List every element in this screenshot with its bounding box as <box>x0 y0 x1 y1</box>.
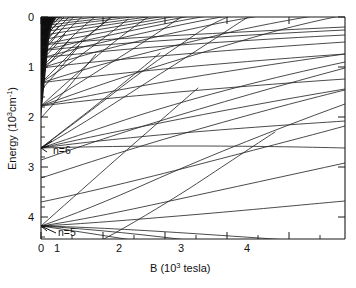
svg-text:B (103 tesla): B (103 tesla) <box>150 261 210 274</box>
x-tick-label: 1 <box>54 242 60 254</box>
x-axis-title: B (103 tesla) <box>150 261 210 274</box>
y-tick-labels: 0 1 2 3 4 <box>28 11 34 223</box>
y-tick-label: 2 <box>28 111 34 123</box>
energy-level-chart: 0 1 2 3 4 0 1 2 3 4 B (103 tesla) Energy… <box>0 0 356 288</box>
y-axis-title: Energy (103cm-1) <box>5 87 18 170</box>
annotation-n5: n=5 <box>41 226 76 238</box>
x-tick-labels: 0 1 2 3 4 <box>38 242 250 254</box>
x-tick-label: 4 <box>244 242 250 254</box>
chart-svg: 0 1 2 3 4 0 1 2 3 4 B (103 tesla) Energy… <box>0 0 356 288</box>
y-axis-title-unit: cm <box>6 97 18 112</box>
x-tick-label: 2 <box>116 242 122 254</box>
n5-label-text: n=5 <box>58 226 76 238</box>
annotation-n6: n=6 <box>41 141 71 156</box>
x-axis-title-tail: tesla) <box>180 262 210 274</box>
plot-frame <box>41 17 345 239</box>
y-axis-ticks <box>41 17 345 237</box>
y-axis-title-exponent2: -1 <box>5 91 14 98</box>
y-tick-label: 0 <box>28 11 34 23</box>
y-tick-label: 1 <box>28 61 34 73</box>
y-tick-label: 4 <box>28 211 34 223</box>
curve-group <box>41 1 345 283</box>
n6-label-text: n=6 <box>53 144 71 156</box>
x-axis-title-prefix: B (10 <box>150 262 176 274</box>
svg-text:Energy (103cm-1): Energy (103cm-1) <box>5 87 18 170</box>
y-tick-label: 3 <box>28 161 34 173</box>
y-axis-title-suffix: ) <box>6 87 18 91</box>
x-tick-label: 0 <box>38 242 44 254</box>
y-axis-title-prefix: Energy (10 <box>6 116 18 170</box>
x-axis-ticks <box>41 17 320 239</box>
x-tick-label: 3 <box>178 242 184 254</box>
